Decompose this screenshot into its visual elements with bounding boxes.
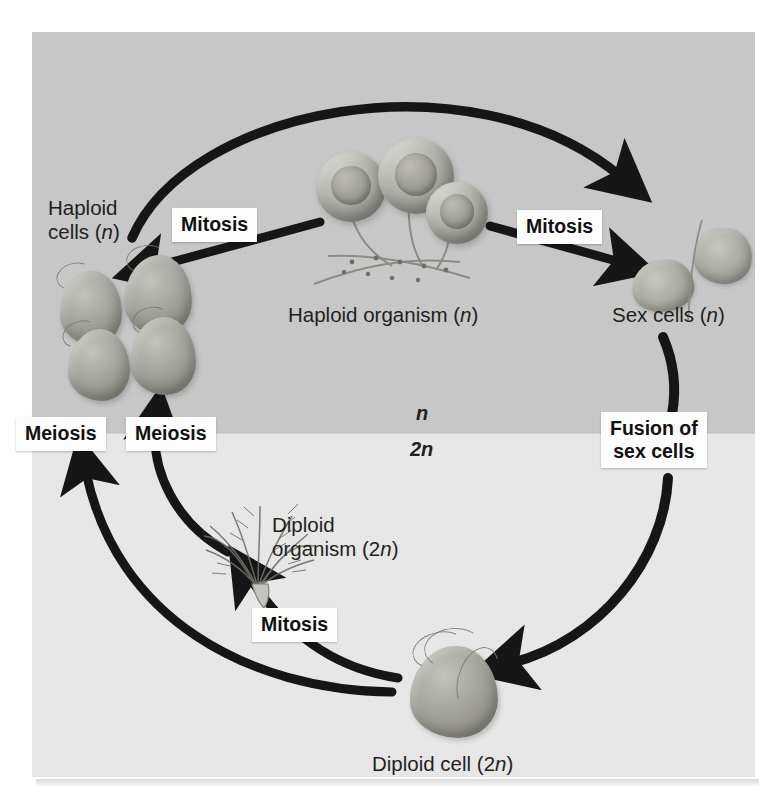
label-haploid-organism: Haploid organism (n) bbox=[288, 303, 478, 327]
label-haploid-cells: Haploidcells (n) bbox=[48, 196, 120, 244]
label-meiosis-left: Meiosis bbox=[16, 417, 106, 451]
haploid-cells-artwork bbox=[52, 243, 222, 393]
label-sex-cells: Sex cells (n) bbox=[612, 303, 725, 327]
label-diploid-cell: Diploid cell (2n) bbox=[372, 752, 513, 776]
label-fusion-of-sex-cells: Fusion of sex cells bbox=[601, 412, 707, 468]
diploid-cell-artwork bbox=[398, 628, 528, 748]
label-mitosis-bottom: Mitosis bbox=[252, 608, 337, 642]
haploid-organism-artwork bbox=[300, 138, 520, 303]
life-cycle-figure: n 2n Haploidcells (n) Haploid organism (… bbox=[0, 0, 779, 812]
label-diploid-organism: Diploidorganism (2n) bbox=[272, 513, 398, 561]
arrow-layer bbox=[0, 0, 779, 812]
label-mitosis-top-left: Mitosis bbox=[172, 208, 257, 242]
label-meiosis-right: Meiosis bbox=[126, 417, 216, 451]
ploidy-label-2n: 2n bbox=[410, 438, 433, 461]
arrow-sex-cells-to-diploid-cell-upper bbox=[663, 337, 674, 414]
arrow-sex-cells-to-diploid-cell-lower bbox=[512, 478, 668, 663]
ploidy-label-n: n bbox=[416, 402, 428, 425]
label-mitosis-top-right: Mitosis bbox=[517, 210, 602, 244]
